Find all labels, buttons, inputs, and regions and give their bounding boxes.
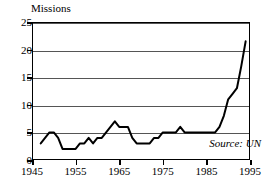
series-line-chart (0, 0, 267, 185)
chart-screenshot: Missions 25 20 15 10 5 0 1945 1955 1965 … (0, 0, 267, 185)
source-note: Source: UN (209, 137, 261, 149)
series-line-un-missions (41, 41, 246, 149)
